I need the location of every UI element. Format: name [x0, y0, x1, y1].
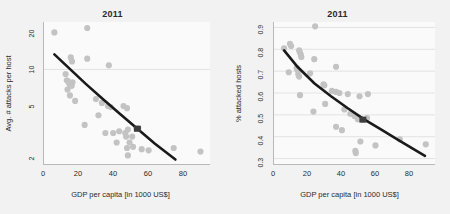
scatter-plot-left: [44, 22, 210, 164]
x-tick-label-right-3: 60: [368, 169, 382, 178]
data-point: [356, 93, 362, 99]
data-point: [171, 145, 177, 151]
data-point: [139, 146, 145, 152]
data-point: [125, 152, 131, 158]
data-point: [321, 82, 327, 88]
y-tick-label-left-3: 2: [28, 151, 35, 161]
x-tick-label-right-2: 40: [334, 169, 348, 178]
scatter-points-right: [281, 23, 429, 156]
chart-panel-right: 2011 % attacked hosts 0.9 0.8 0.7 0.6 0.…: [225, 0, 450, 214]
highlight-marker-left: [134, 126, 141, 132]
y-tick-label-right-1: 0.4: [257, 128, 264, 146]
data-point: [333, 64, 339, 70]
data-point: [345, 91, 351, 97]
figure-container: 2011 Avg. # attacks per host 20 10 5 2 0…: [0, 0, 450, 214]
data-point: [102, 130, 108, 136]
plot-area-right: [273, 22, 435, 165]
y-axis-label-right: % attacked hosts: [234, 22, 246, 165]
data-point: [124, 105, 130, 111]
data-point: [67, 92, 73, 98]
y-tick-label-right-2: 0.5: [257, 106, 264, 124]
data-point: [310, 108, 316, 114]
y-tick-label-right-4: 0.7: [257, 62, 264, 80]
x-tick-label-left-3: 60: [141, 169, 155, 178]
data-point: [64, 87, 70, 93]
data-point: [84, 25, 90, 31]
y-tick-label-right-0: 0.3: [257, 150, 264, 168]
data-point: [146, 147, 152, 153]
regression-line-right: [284, 50, 425, 156]
x-axis-label-left: GDP per capita [in 1000 US$]: [8, 190, 233, 199]
x-tick-label-right-4: 80: [402, 169, 416, 178]
data-point: [353, 150, 359, 156]
y-axis-label-left: Avg. # attacks per host: [4, 22, 16, 165]
data-point: [84, 56, 90, 62]
scatter-plot-right: [274, 22, 435, 164]
data-point: [93, 96, 99, 102]
data-point: [51, 29, 57, 35]
data-point: [63, 71, 69, 77]
panel-title-left: 2011: [0, 9, 225, 19]
data-point: [298, 54, 304, 60]
x-tick-label-left-1: 20: [71, 169, 85, 178]
data-point: [311, 56, 317, 62]
y-tick-label-right-5: 0.8: [257, 40, 264, 58]
data-point: [365, 91, 371, 97]
data-point: [95, 112, 101, 118]
data-point: [129, 134, 135, 140]
data-point: [357, 138, 363, 144]
data-point: [125, 127, 131, 133]
scatter-points-left: [51, 25, 203, 159]
y-tick-label-left-0: 20: [28, 24, 35, 38]
x-tick-label-left-4: 80: [176, 169, 190, 178]
data-point: [114, 139, 120, 145]
data-point: [312, 23, 318, 29]
data-point: [296, 74, 302, 80]
data-point: [333, 124, 339, 130]
y-tick-label-right-3: 0.6: [257, 84, 264, 102]
data-point: [297, 92, 303, 98]
plot-area-left: [43, 22, 210, 165]
data-point: [106, 62, 112, 68]
data-point: [197, 149, 203, 155]
data-point: [116, 128, 122, 134]
highlight-marker-right: [359, 117, 366, 123]
x-tick-label-right-0: 0: [266, 169, 280, 178]
data-point: [72, 98, 78, 104]
x-axis-label-right: GDP per capita [in 1000 US$]: [237, 190, 450, 199]
y-tick-label-right-6: 0.9: [257, 17, 264, 35]
data-point: [82, 122, 88, 128]
data-point: [372, 142, 378, 148]
data-point: [288, 43, 294, 49]
chart-panel-left: 2011 Avg. # attacks per host 20 10 5 2 0…: [0, 0, 225, 214]
data-point: [130, 144, 136, 150]
x-tick-label-left-0: 0: [36, 169, 50, 178]
data-point: [336, 90, 342, 96]
y-tick-label-left-2: 5: [28, 99, 35, 109]
data-point: [69, 58, 75, 64]
data-point: [322, 101, 328, 107]
data-point: [124, 145, 130, 151]
data-point: [110, 130, 116, 136]
x-tick-label-right-1: 20: [300, 169, 314, 178]
data-point: [69, 79, 75, 85]
data-point: [423, 141, 429, 147]
data-point: [286, 69, 292, 75]
data-point: [123, 134, 129, 140]
data-point: [339, 127, 345, 133]
x-tick-label-left-2: 40: [106, 169, 120, 178]
y-tick-label-left-1: 10: [28, 60, 35, 74]
